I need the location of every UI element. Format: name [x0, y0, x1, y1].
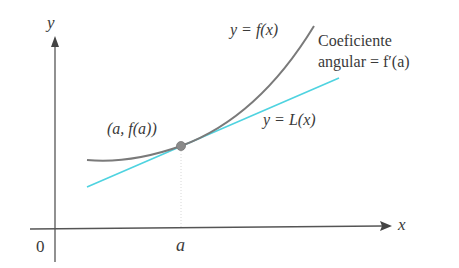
tick-label-a: a — [176, 236, 185, 254]
slope-label-line2: angular = f′(a) — [318, 54, 410, 70]
curve-label: y = f(x) — [230, 22, 278, 38]
y-axis-label: y — [47, 14, 55, 31]
function-curve — [87, 26, 314, 161]
tangent-label: y = L(x) — [263, 112, 316, 128]
x-axis — [30, 226, 382, 229]
x-axis-label: x — [398, 216, 406, 233]
point-label: (a, f(a)) — [107, 121, 157, 137]
origin-label: 0 — [36, 238, 45, 255]
y-axis-arrow-icon — [51, 36, 59, 47]
slope-label-line1: Coeficiente — [318, 33, 392, 49]
tangent-point — [177, 142, 186, 151]
